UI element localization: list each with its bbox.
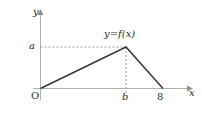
graph-canvas — [0, 0, 202, 121]
graph-figure: y x a b 8 O y=f(x) — [0, 0, 202, 121]
y-tick-label-a: a — [29, 41, 35, 51]
x-axis-label: x — [189, 88, 195, 98]
origin-label: O — [31, 91, 39, 101]
curve-label: y=f(x) — [104, 29, 135, 39]
x-tick-label-8: 8 — [157, 92, 163, 102]
y-axis-label: y — [33, 7, 39, 17]
function-curve — [41, 47, 164, 89]
x-tick-label-b: b — [122, 92, 128, 102]
